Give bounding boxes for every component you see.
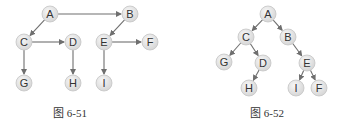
node-label: G [20,77,29,89]
node-F: F [142,34,158,50]
edge-E-F [310,70,315,80]
node-H: H [65,75,81,91]
edge-D-H [253,70,259,80]
node-label: G [220,56,229,68]
node-label: I [102,77,105,89]
figure-caption-2: 图 6-52 [250,104,284,120]
node-label: A [264,8,272,20]
edge-C-G [230,43,241,55]
node-label: H [245,82,253,94]
edge-C-D [250,44,258,56]
node-label: I [294,82,297,94]
node-I: I [288,80,304,96]
node-label: D [69,36,77,48]
node-H: H [241,80,257,96]
node-G: G [216,54,232,70]
node-B: B [122,6,138,22]
node-A: A [42,6,58,22]
node-label: F [147,36,154,48]
node-label: B [284,31,291,43]
edge-B-E [293,43,302,55]
node-E: E [299,55,315,71]
node-label: C [20,36,28,48]
edge-A-B [273,20,282,30]
node-label: E [100,36,107,48]
node-label: H [69,77,77,89]
node-D: D [65,34,81,50]
node-F: F [311,80,327,96]
node-B: B [280,29,296,45]
node-C: C [238,29,254,45]
edge-E-I [300,70,304,79]
graph-diagram: ABCDEFGHIACBGDHEIF [0,0,342,131]
node-I: I [96,75,112,91]
edge-A-C [30,20,44,36]
node-E: E [96,34,112,50]
node-label: D [259,57,267,69]
node-label: F [316,82,323,94]
figure-caption-1: 图 6-51 [53,104,87,120]
node-label: A [46,8,54,20]
node-C: C [16,34,32,50]
node-label: B [126,8,133,20]
node-label: E [303,57,310,69]
node-A: A [260,6,276,22]
edge-B-E [110,20,124,36]
node-label: C [242,31,250,43]
node-G: G [16,75,32,91]
node-D: D [255,55,271,71]
edge-A-C [252,20,262,31]
